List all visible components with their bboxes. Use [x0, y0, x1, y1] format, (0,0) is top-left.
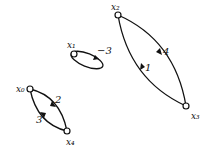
edge-label-neg3: −3 [97, 45, 112, 56]
arrow-icon [156, 48, 162, 55]
graph-diagram: 2 3 −3 4 1 x₀ x₁ x₂ x₃ x₄ [0, 0, 209, 147]
edge-label-4: 4 [162, 46, 169, 57]
edge-x3-x2-weight-1 [118, 15, 186, 106]
edge-label-3: 3 [36, 114, 42, 125]
node-label-x3: x₃ [191, 111, 200, 121]
node-x0 [27, 86, 33, 92]
node-x4 [64, 128, 70, 134]
node-x2 [115, 12, 121, 18]
node-label-x4: x₄ [66, 137, 75, 147]
node-label-x2: x₂ [111, 2, 120, 12]
node-label-x1: x₁ [67, 40, 76, 50]
edge-label-2: 2 [54, 94, 61, 105]
node-x1 [71, 51, 77, 57]
edge-x2-x3-weight-4 [118, 15, 186, 106]
node-label-x0: x₀ [16, 84, 25, 94]
edge-label-1: 1 [145, 62, 151, 73]
node-x3 [183, 103, 189, 109]
